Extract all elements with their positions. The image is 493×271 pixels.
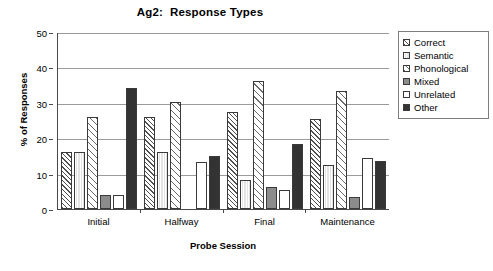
x-axis-tick-label: Initial	[57, 216, 140, 230]
bar-group	[141, 33, 224, 209]
x-axis-tick-label: Maintenance	[306, 216, 389, 230]
y-axis-tick-labels: 01020304050	[0, 33, 53, 210]
bar	[61, 152, 72, 209]
bar	[74, 152, 85, 209]
bar	[87, 117, 98, 209]
legend-item-label: Semantic	[414, 51, 454, 60]
legend: CorrectSemanticPhonologicalMixedUnrelate…	[398, 31, 489, 119]
legend-swatch-icon	[403, 52, 410, 59]
y-axis-tick-mark	[49, 139, 53, 140]
x-axis-group-separator	[305, 209, 306, 213]
bar	[227, 112, 238, 209]
bar	[323, 165, 334, 209]
y-axis-tick-label: 30	[36, 99, 47, 108]
legend-swatch-icon	[403, 39, 410, 46]
y-axis-tick-label: 40	[36, 64, 47, 73]
x-axis-tick-label: Final	[223, 216, 306, 230]
legend-swatch-icon	[403, 104, 410, 111]
y-axis-tick-label: 50	[36, 29, 47, 38]
y-axis-tick-mark	[49, 33, 53, 34]
bar-group	[58, 33, 141, 209]
legend-item[interactable]: Mixed	[403, 75, 485, 88]
legend-item[interactable]: Unrelated	[403, 88, 485, 101]
legend-item[interactable]: Phonological	[403, 62, 485, 75]
bar	[157, 152, 168, 209]
bar	[196, 162, 207, 209]
y-axis-tick-label: 0	[42, 206, 47, 215]
bar	[126, 88, 137, 209]
bar	[209, 156, 220, 209]
bar	[375, 161, 386, 209]
legend-item[interactable]: Correct	[403, 36, 485, 49]
x-axis-title: Probe Session	[57, 240, 389, 251]
legend-item[interactable]: Other	[403, 101, 485, 114]
legend-item[interactable]: Semantic	[403, 49, 485, 62]
x-axis-group-separator	[223, 209, 224, 213]
bar	[170, 102, 181, 209]
legend-swatch-icon	[403, 91, 410, 98]
bar	[292, 144, 303, 209]
chart-title: Ag2: Response Types	[0, 6, 400, 18]
legend-item-label: Phonological	[414, 64, 468, 73]
bar	[349, 197, 360, 209]
bar	[240, 180, 251, 209]
x-axis-group-separator	[140, 209, 141, 213]
legend-swatch-icon	[403, 65, 410, 72]
legend-item-label: Mixed	[414, 77, 439, 86]
y-axis-tick-mark	[49, 175, 53, 176]
y-axis-tick-mark	[49, 68, 53, 69]
bar	[266, 187, 277, 209]
legend-swatch-icon	[403, 78, 410, 85]
x-axis-tick-labels: InitialHalfwayFinalMaintenance	[57, 216, 389, 230]
y-axis-tick-mark	[49, 104, 53, 105]
x-axis-tick-label: Halfway	[140, 216, 223, 230]
bar-groups	[58, 33, 389, 209]
plot-area	[57, 33, 389, 210]
legend-item-label: Correct	[414, 38, 445, 47]
y-axis-tick-label: 20	[36, 135, 47, 144]
bar	[113, 195, 124, 210]
bar	[144, 117, 155, 209]
bar	[100, 195, 111, 209]
y-axis-tick-label: 10	[36, 170, 47, 179]
bar	[336, 91, 347, 209]
legend-item-label: Other	[414, 103, 438, 112]
bar	[253, 81, 264, 210]
bar-group	[306, 33, 389, 209]
bar	[310, 119, 321, 209]
bar-group	[224, 33, 307, 209]
y-axis-tick-mark	[49, 210, 53, 211]
bar	[362, 158, 373, 209]
legend-item-label: Unrelated	[414, 90, 455, 99]
bar	[279, 190, 290, 209]
bar-chart-figure: Ag2: Response Types % of Responses 01020…	[0, 0, 493, 271]
